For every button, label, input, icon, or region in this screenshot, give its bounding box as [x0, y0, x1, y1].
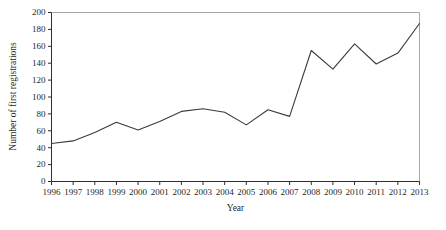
y-tick-label: 180: [32, 24, 46, 34]
line-chart: 0204060801001201401601802001996199719981…: [0, 0, 446, 230]
x-tick-label: 1999: [107, 187, 126, 197]
y-tick-label: 60: [37, 126, 47, 136]
x-tick-label: 2008: [302, 187, 321, 197]
x-tick-label: 2005: [237, 187, 256, 197]
data-series: [52, 24, 420, 144]
x-tick-label: 2013: [411, 187, 430, 197]
plot-border: [52, 13, 420, 182]
registrations-line-chart-figure: 0204060801001201401601802001996199719981…: [0, 0, 446, 230]
plot-frame: [52, 13, 420, 182]
series-line: [52, 24, 420, 144]
x-tick-label: 2001: [151, 187, 169, 197]
y-tick-label: 20: [37, 159, 47, 169]
x-tick-label: 2006: [259, 187, 278, 197]
tick-labels: 0204060801001201401601802001996199719981…: [32, 7, 429, 196]
axis-lines: [52, 13, 420, 182]
y-tick-label: 120: [32, 75, 46, 85]
y-tick-label: 140: [32, 58, 46, 68]
y-tick-label: 160: [32, 41, 46, 51]
x-tick-label: 2000: [129, 187, 148, 197]
y-tick-label: 80: [37, 109, 47, 119]
x-tick-label: 2003: [194, 187, 213, 197]
x-tick-label: 2010: [346, 187, 365, 197]
x-tick-label: 2004: [216, 187, 235, 197]
x-tick-label: 1998: [86, 187, 105, 197]
y-tick-label: 100: [32, 92, 46, 102]
x-tick-label: 2002: [172, 187, 190, 197]
x-axis-title: Year: [227, 203, 245, 213]
x-tick-label: 2007: [281, 187, 300, 197]
x-tick-label: 1997: [64, 187, 83, 197]
x-tick-label: 2012: [389, 187, 407, 197]
y-tick-label: 40: [37, 143, 47, 153]
y-tick-label: 0: [41, 176, 46, 186]
axes: [48, 13, 420, 186]
y-tick-label: 200: [32, 7, 46, 17]
x-tick-label: 2009: [324, 187, 343, 197]
x-tick-label: 2011: [367, 187, 385, 197]
y-axis-title: Number of first registrations: [8, 42, 18, 151]
x-tick-label: 1996: [43, 187, 62, 197]
